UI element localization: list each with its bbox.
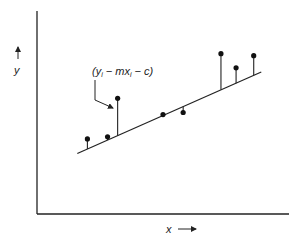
data-point (105, 134, 110, 139)
data-point (115, 96, 120, 101)
fit-line (77, 72, 261, 154)
x-axis-label: x (165, 223, 172, 235)
y-axis-label: y (13, 64, 21, 76)
residual-annotation: (yi − mxi − c) (92, 65, 154, 78)
data-point (85, 136, 90, 141)
data-point (181, 110, 186, 115)
data-point (160, 112, 165, 117)
annotation-close: − c) (132, 65, 154, 77)
annotation-mid: − mx (103, 65, 131, 77)
regression-diagram: y x (yi − mxi − c) (0, 0, 306, 241)
data-point (251, 53, 256, 58)
annotation-leader-arrow (95, 80, 113, 108)
data-point (233, 65, 238, 70)
data-point (218, 51, 223, 56)
